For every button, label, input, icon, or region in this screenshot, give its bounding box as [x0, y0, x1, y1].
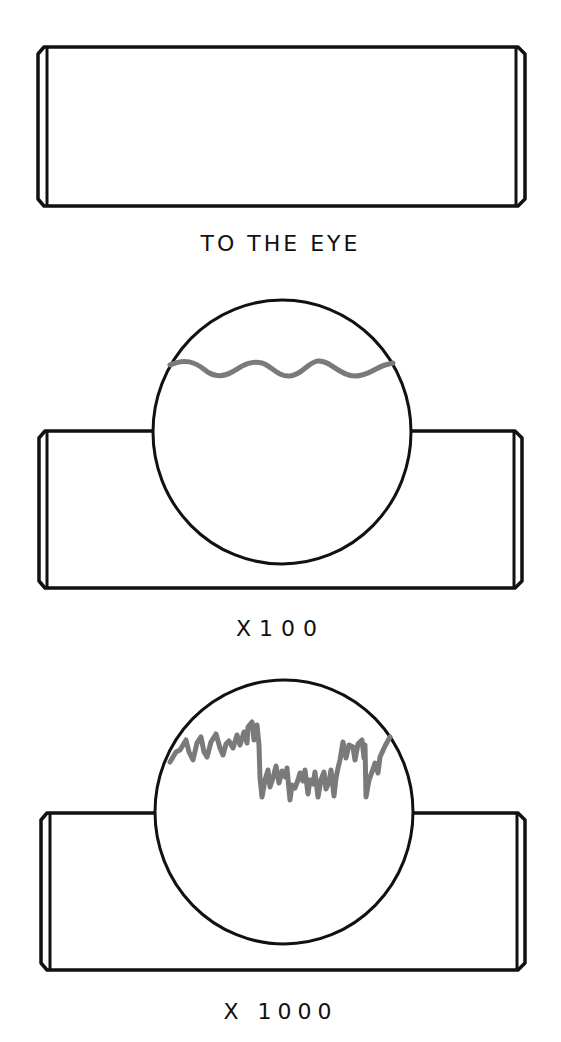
panel-x100 [39, 300, 522, 588]
metal-bar-outline [38, 47, 525, 206]
label-x100: X100 [0, 617, 561, 641]
surface-roughness-diagram [0, 0, 561, 1042]
label-x1000: X 1000 [0, 1000, 561, 1024]
panel-to-the-eye [38, 47, 525, 206]
label-to-the-eye: TO THE EYE [0, 232, 561, 256]
magnifier-circle [155, 680, 413, 944]
panel-x1000 [41, 680, 525, 970]
magnifier-circle [153, 300, 411, 564]
